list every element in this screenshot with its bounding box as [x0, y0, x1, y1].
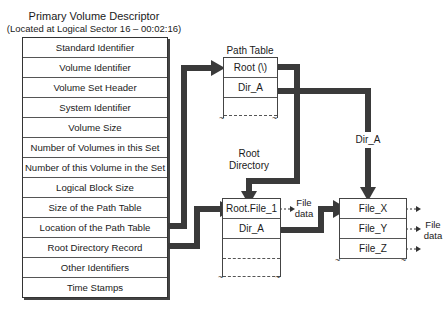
dir-a-entry-file-z: File_Z: [340, 239, 406, 259]
root-dir-entry-file1: Root.File_1: [223, 199, 280, 219]
root-dir-empty-row: [223, 259, 280, 277]
file-data-line1: File: [420, 219, 445, 230]
break-mark-icon: ~: [275, 272, 280, 282]
file-data-line2: data: [420, 230, 445, 241]
path-table-entry-dir-a: Dir_A: [224, 78, 277, 98]
path-table-entry-root: Root (\): [224, 58, 277, 78]
arrow-path-table-location: [167, 68, 213, 226]
root-dir-entry-dir-a: Dir_A: [223, 219, 280, 239]
dir-a-box: File_X File_Y File_Z: [339, 198, 407, 259]
root-directory-box: Root.File_1 Dir_A: [222, 198, 281, 277]
break-mark-icon: ~: [401, 255, 406, 265]
root-dir-empty-row: [223, 239, 280, 259]
file-data-line2: data: [290, 208, 318, 219]
root-directory-label-line1: Root: [222, 148, 276, 160]
dir-a-arrow-label: Dir_A: [352, 134, 384, 146]
dir-a-entry-file-y: File_Y: [340, 219, 406, 239]
break-mark-icon: ~: [272, 113, 277, 123]
file-data-line1: File: [290, 197, 318, 208]
path-table-box: Root (\) Dir_A: [223, 57, 278, 118]
break-mark-icon: ~: [218, 272, 223, 282]
break-mark-icon: ~: [335, 255, 340, 265]
root-file-data-label: File data: [290, 197, 318, 219]
dir-a-file-data-label: File data: [420, 219, 445, 241]
root-directory-label: Root Directory: [222, 148, 276, 172]
arrow-path-dira-to-dira: [276, 91, 368, 132]
path-table-empty-row: [224, 98, 277, 116]
root-directory-label-line2: Directory: [222, 160, 276, 172]
dir-a-entry-file-x: File_X: [340, 199, 406, 219]
break-mark-icon: ~: [219, 113, 224, 123]
path-table-title: Path Table: [222, 45, 278, 57]
